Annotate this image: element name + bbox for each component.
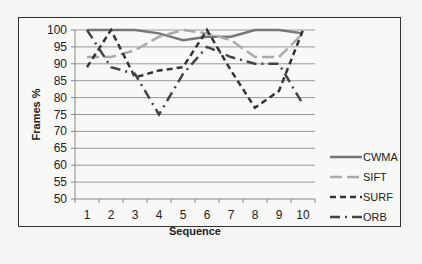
legend-label-sift: SIFT [363, 171, 387, 183]
legend-label-cwma: CWMA [363, 151, 398, 163]
x-tick-label: 2 [108, 208, 115, 222]
y-tick-label: 95 [54, 40, 68, 54]
y-tick-label: 60 [54, 158, 68, 172]
y-axis-label: Frames % [30, 88, 42, 140]
y-tick-label: 55 [54, 175, 68, 189]
y-tick-label: 75 [54, 108, 68, 122]
x-tick-labels: 12345678910 [84, 208, 310, 222]
x-axis-label: Sequence [169, 225, 221, 237]
x-tick-label: 1 [84, 208, 91, 222]
x-tick-label: 5 [180, 208, 187, 222]
x-tick-label: 6 [204, 208, 211, 222]
x-tick-label: 10 [296, 208, 310, 222]
x-tick-label: 7 [228, 208, 235, 222]
series-line-sift [87, 30, 303, 57]
line-chart: 50556065707580859095100 12345678910 Sequ… [0, 0, 422, 264]
series-line-orb [87, 30, 303, 115]
y-tick-label: 65 [54, 141, 68, 155]
legend-label-surf: SURF [363, 191, 393, 203]
x-tick-label: 8 [252, 208, 259, 222]
series-lines [87, 30, 303, 115]
x-tick-label: 9 [276, 208, 283, 222]
legend-label-orb: ORB [363, 211, 387, 223]
y-tick-label: 100 [47, 23, 67, 37]
legend: CWMASIFTSURFORB [330, 151, 398, 223]
y-tick-label: 50 [54, 192, 68, 206]
x-tick-label: 3 [132, 208, 139, 222]
y-tick-label: 90 [54, 57, 68, 71]
y-tick-label: 80 [54, 91, 68, 105]
y-tick-label: 85 [54, 74, 68, 88]
y-tick-label: 70 [54, 124, 68, 138]
y-tick-labels: 50556065707580859095100 [47, 23, 67, 206]
x-tick-label: 4 [156, 208, 163, 222]
